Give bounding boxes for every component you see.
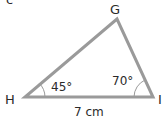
vertex-label-i: I [158,92,162,107]
vertex-label-g: G [110,2,120,17]
side-label-hi: 7 cm [74,105,104,119]
triangle-diagram: c G H I 45° 70° 7 cm [0,0,166,135]
angle-label-i: 70° [112,74,133,88]
angle-arc-i [134,80,145,97]
angle-label-h: 45° [51,80,72,94]
part-label: c [6,0,13,7]
triangle-ghi [25,19,153,97]
vertex-label-h: H [5,92,15,107]
